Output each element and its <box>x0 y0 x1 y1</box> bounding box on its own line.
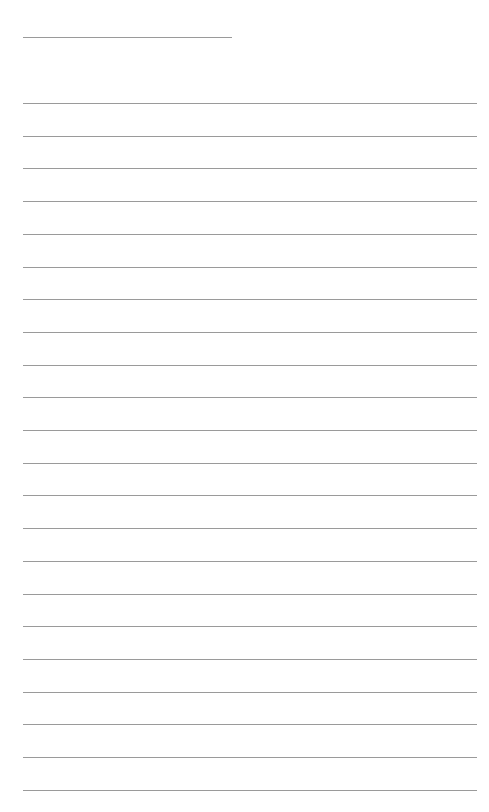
writing-line <box>23 757 477 758</box>
writing-line <box>23 724 477 725</box>
writing-line <box>23 659 477 660</box>
writing-line <box>23 267 477 268</box>
writing-line <box>23 430 477 431</box>
writing-line <box>23 201 477 202</box>
writing-line <box>23 463 477 464</box>
writing-line <box>23 561 477 562</box>
writing-line <box>23 594 477 595</box>
writing-line <box>23 626 477 627</box>
writing-line <box>23 332 477 333</box>
header-line <box>23 37 232 38</box>
writing-line <box>23 365 477 366</box>
writing-line <box>23 136 477 137</box>
writing-line <box>23 528 477 529</box>
lined-paper-page <box>0 0 489 812</box>
writing-line <box>23 495 477 496</box>
writing-line <box>23 397 477 398</box>
writing-line <box>23 168 477 169</box>
writing-line <box>23 103 477 104</box>
writing-line <box>23 299 477 300</box>
writing-line <box>23 234 477 235</box>
writing-line <box>23 790 477 791</box>
writing-line <box>23 692 477 693</box>
